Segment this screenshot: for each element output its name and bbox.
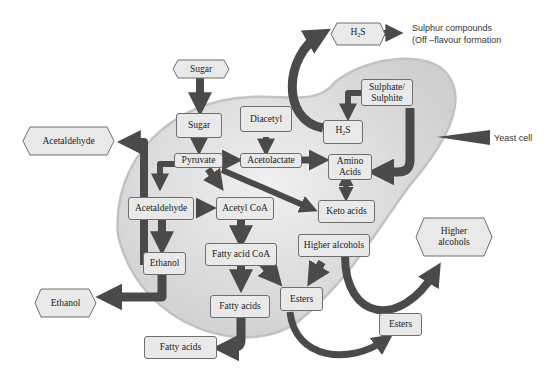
- pathway-diagram: [0, 0, 554, 378]
- external-h2s-node: H2S: [331, 23, 385, 45]
- external-fatty-acids-node: Fatty acids: [144, 336, 217, 359]
- external-higher-alcohols-line2: alcohols: [438, 237, 470, 248]
- external-h2s-label: H2S: [350, 27, 365, 41]
- acetaldehyde-node: Acetaldehyde: [128, 197, 194, 220]
- amino-acids-node: Amino Acids: [328, 154, 372, 180]
- external-esters-node: Esters: [379, 313, 422, 336]
- sugar-node: Sugar: [176, 113, 222, 138]
- yeast-cell-label: Yeast cell: [494, 132, 532, 144]
- acetyl-coa-node: Acetyl CoA: [216, 197, 274, 220]
- external-sugar-label: Sugar: [190, 64, 212, 75]
- higher-alcohols-node: Higher alcohols: [298, 234, 370, 257]
- acetolactate-node: Acetolactate: [240, 153, 302, 168]
- external-higher-alcohols-node: Higher alcohols: [416, 218, 492, 256]
- external-acetaldehyde-label: Acetaldehyde: [42, 136, 94, 147]
- pyruvate-node: Pyruvate: [174, 153, 223, 168]
- external-sugar-node: Sugar: [173, 60, 229, 78]
- ethanol-node: Ethanol: [143, 252, 186, 275]
- fatty-acids-node: Fatty acids: [210, 295, 270, 318]
- external-higher-alcohols-line1: Higher: [441, 226, 467, 237]
- sulphur-compounds-label: Sulphur compounds (Off –flavour formatio…: [412, 22, 501, 46]
- fatty-acid-coa-node: Fatty acid CoA: [205, 243, 277, 266]
- external-acetaldehyde-node: Acetaldehyde: [23, 127, 114, 155]
- keto-acids-node: Keto acids: [318, 200, 375, 223]
- sulphate-sulphite-node: Sulphate/ Sulphite: [361, 79, 413, 106]
- external-ethanol-node: Ethanol: [35, 289, 96, 317]
- esters-node: Esters: [280, 287, 323, 311]
- h2s-node: H2S: [323, 120, 363, 144]
- external-ethanol-label: Ethanol: [51, 298, 81, 309]
- diacetyl-node: Diacetyl: [240, 106, 292, 132]
